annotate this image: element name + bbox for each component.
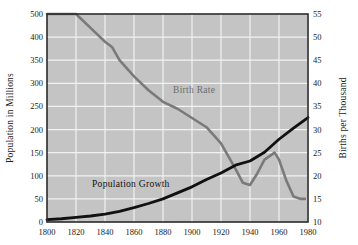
right-axis-tick-label: 10 xyxy=(313,217,322,227)
right-axis-tick-label: 55 xyxy=(313,9,322,19)
left-axis-tick-label: 0 xyxy=(39,217,43,227)
x-axis-tick-label: 1880 xyxy=(155,227,172,237)
left-axis-tick-label: 400 xyxy=(30,32,43,42)
left-axis-tick-label: 250 xyxy=(30,101,43,111)
x-axis-tick-label: 1820 xyxy=(68,227,85,237)
x-axis-tick-label: 1960 xyxy=(271,227,288,237)
x-axis-tick-label: 1980 xyxy=(300,227,317,237)
population-birthrate-chart: 050100150200250300350400500 101520253035… xyxy=(0,0,358,245)
x-axis-tick-label: 1840 xyxy=(97,227,114,237)
x-axis-tick-label: 1800 xyxy=(39,227,56,237)
right-axis-tick-label: 50 xyxy=(313,32,322,42)
left-axis-tick-label: 300 xyxy=(30,78,43,88)
series-annotation-population-growth: Population Growth xyxy=(92,179,170,189)
left-axis-title: Population in Millions xyxy=(5,73,15,163)
left-axis-tick-label: 150 xyxy=(30,148,43,158)
right-axis-title: Births per Thousand xyxy=(338,77,348,158)
right-axis-tick-label: 45 xyxy=(313,55,322,65)
series-annotation-birth-rate: Birth Rate xyxy=(173,85,215,95)
x-axis-tick-label: 1920 xyxy=(213,227,230,237)
left-axis-tick-label: 50 xyxy=(35,194,44,204)
right-axis-tick-label: 35 xyxy=(313,101,322,111)
x-axis-tick-label: 1860 xyxy=(126,227,143,237)
right-axis-tick-label: 30 xyxy=(313,125,322,135)
right-axis-tick-label: 40 xyxy=(313,78,322,88)
chart-container: 050100150200250300350400500 101520253035… xyxy=(0,0,358,245)
left-axis-tick-label: 500 xyxy=(30,9,43,19)
left-axis-tick-label: 350 xyxy=(30,55,43,65)
right-axis-tick-label: 25 xyxy=(313,148,322,158)
x-axis-tick-label: 1900 xyxy=(184,227,201,237)
right-axis-tick-label: 15 xyxy=(313,194,322,204)
left-axis-tick-label: 200 xyxy=(30,125,43,135)
x-axis-tick-label: 1940 xyxy=(242,227,259,237)
left-axis-tick-label: 100 xyxy=(30,171,43,181)
right-axis-tick-label: 20 xyxy=(313,171,322,181)
plot-area-background xyxy=(47,14,308,222)
